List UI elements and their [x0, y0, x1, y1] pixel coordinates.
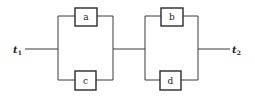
terminal-t2-subscript: 2: [237, 49, 241, 56]
component-d-label: d: [168, 76, 174, 86]
component-c-label: c: [83, 76, 88, 86]
component-b-label: b: [169, 12, 175, 22]
component-b: b: [161, 8, 183, 26]
terminal-t2-label: t2: [232, 44, 241, 56]
parallel-block-2: b d: [145, 8, 198, 90]
terminal-t1-label: t1: [13, 44, 22, 56]
component-a: a: [75, 8, 97, 26]
terminal-t1-subscript: 1: [18, 49, 22, 56]
network-diagram: a c b d t1 t2: [0, 0, 255, 98]
component-c: c: [75, 71, 96, 90]
parallel-block-1: a c: [58, 8, 113, 90]
component-a-label: a: [83, 12, 89, 22]
component-d: d: [160, 71, 181, 90]
